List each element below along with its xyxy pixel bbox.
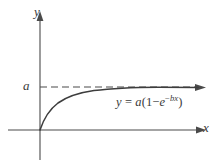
y-axis <box>37 11 44 160</box>
equation-exponent: −bx <box>165 93 178 103</box>
figure-canvas <box>0 0 218 164</box>
y-axis-label: y <box>34 4 40 20</box>
asymptote-label: a <box>23 78 30 94</box>
equation-open-paren: (1 <box>142 95 153 109</box>
x-axis <box>8 127 206 134</box>
curve-equation-label: y = a(1−e−bx) <box>116 95 182 110</box>
equation-close-paren: ) <box>178 95 182 109</box>
equation-equals: = <box>122 95 136 109</box>
exponential-saturation-figure: y x a y = a(1−e−bx) <box>0 0 218 164</box>
x-axis-label: x <box>203 120 209 136</box>
